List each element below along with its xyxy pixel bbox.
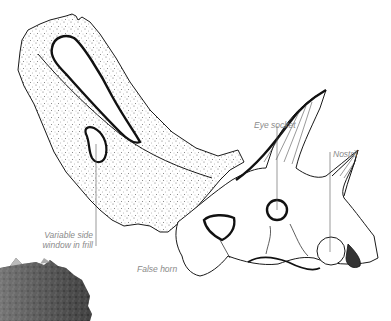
label-side-window-line2: window in frill [31,240,93,250]
fossil-photo-inset [0,258,92,321]
label-false-horn: False horn [137,264,177,274]
label-eye-socket: Eye socket [254,120,296,130]
skull-illustration [0,0,391,321]
label-side-window: Variable side window in frill [31,230,93,250]
label-nostril: Nostril [333,149,357,159]
label-side-window-line1: Variable side [31,230,93,240]
skull-diagram: Eye socket Nostril Variable side window … [0,0,391,321]
